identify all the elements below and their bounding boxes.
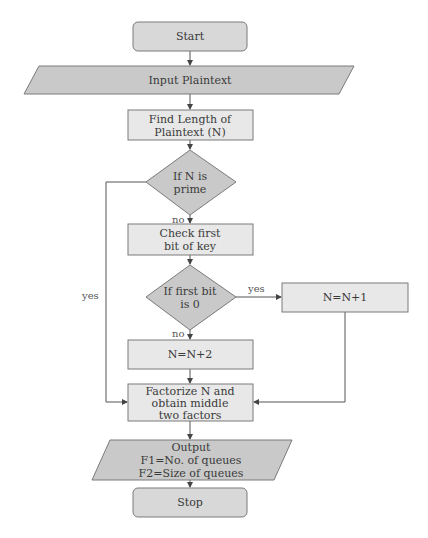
node-start: Start [133,22,247,51]
node-check-bit-line1: Check first [160,227,222,240]
node-n-plus-1-text: N=N+1 [323,291,368,304]
edge-nplus1-factorize [254,312,345,402]
node-first-bit-line2: is 0 [180,298,200,311]
node-output-line2: F1=No. of queues [141,454,242,467]
node-first-bit-zero: If first bit is 0 [146,265,236,330]
node-first-bit-line1: If first bit [163,285,217,298]
node-check-bit: Check first bit of key [128,224,253,255]
node-n-plus-2-text: N=N+2 [168,348,213,361]
node-check-bit-line2: bit of key [164,240,217,253]
node-stop-text: Stop [177,496,203,509]
node-factorize: Factorize N and obtain middle two factor… [128,384,253,422]
node-find-length-line1: Find Length of [149,113,232,126]
node-stop: Stop [133,488,247,517]
node-output: Output F1=No. of queues F2=Size of queue… [92,440,292,480]
node-is-prime-line1: If N is [173,170,208,183]
node-start-text: Start [176,30,205,43]
label-bit-yes: yes [247,283,265,294]
node-output-line1: Output [171,441,211,454]
node-n-plus-1: N=N+1 [282,283,408,312]
node-find-length-line2: Plaintext (N) [154,126,225,139]
node-is-prime: If N is prime [146,150,236,215]
node-is-prime-line2: prime [174,183,207,196]
flowchart: no yes yes no Start Input Plaintext Find… [0,0,428,538]
node-input-text: Input Plaintext [148,74,232,87]
node-find-length: Find Length of Plaintext (N) [128,110,253,140]
node-factorize-line3: two factors [159,409,222,422]
label-bit-no: no [172,328,184,339]
node-input: Input Plaintext [24,66,354,94]
label-prime-yes: yes [81,290,99,301]
node-output-line3: F2=Size of queues [139,467,244,480]
label-prime-no: no [172,214,184,225]
node-n-plus-2: N=N+2 [128,340,253,369]
